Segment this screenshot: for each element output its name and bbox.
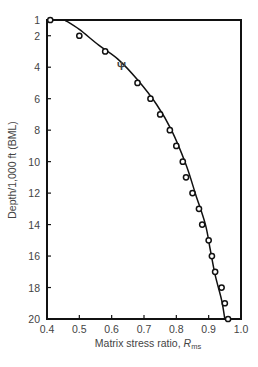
x-tick-label: 1.0 [234, 323, 249, 335]
fitted-curve [65, 20, 225, 319]
data-point-marker [209, 253, 214, 258]
x-tick-label: 0.6 [104, 323, 119, 335]
data-point-marker [167, 128, 172, 133]
data-point-marker [174, 143, 179, 148]
axes [47, 20, 241, 319]
y-tick-label: 6 [34, 93, 40, 105]
data-point-marker [225, 316, 230, 321]
y-tick-label: 2 [34, 30, 40, 42]
y-tick-labels: 12468101214161820 [28, 14, 40, 325]
psi-marker-icon: Ψ [117, 60, 126, 72]
y-tick-label: 16 [28, 250, 40, 262]
depth-vs-stress-ratio-chart: 0.40.50.60.70.80.91.0 12468101214161820 … [0, 0, 258, 367]
data-point-marker [180, 159, 185, 164]
y-tick-label: 1 [34, 14, 40, 26]
data-point-marker [135, 80, 140, 85]
data-point-marker [183, 175, 188, 180]
x-tick-label: 0.7 [137, 323, 152, 335]
x-tick-label: 0.5 [72, 323, 87, 335]
x-axis-label: Matrix stress ratio, Rms [95, 337, 202, 351]
y-tick-label: 18 [28, 282, 40, 294]
y-tick-label: 12 [28, 187, 40, 199]
y-tick-label: 10 [28, 156, 40, 168]
data-point-marker [48, 17, 53, 22]
y-axis-label: Depth/1,000 ft (BML) [6, 121, 18, 218]
x-tick-label: 0.9 [201, 323, 216, 335]
data-point-marker [158, 112, 163, 117]
data-point-marker [213, 269, 218, 274]
y-tick-label: 4 [34, 61, 40, 73]
data-markers: Ψ [48, 17, 231, 321]
data-point-marker [148, 96, 153, 101]
y-tick-label: 8 [34, 124, 40, 136]
data-point-marker [222, 301, 227, 306]
plot-area: 0.40.50.60.70.80.91.0 12468101214161820 … [0, 0, 258, 367]
x-tick-label: 0.8 [169, 323, 184, 335]
tick-marks [47, 20, 241, 319]
data-point-marker [77, 33, 82, 38]
data-point-marker [196, 206, 201, 211]
data-point-marker [200, 222, 205, 227]
y-tick-label: 14 [28, 219, 40, 231]
data-point-marker [206, 238, 211, 243]
data-point-marker [219, 285, 224, 290]
x-tick-labels: 0.40.50.60.70.80.91.0 [40, 323, 249, 335]
y-tick-label: 20 [28, 313, 40, 325]
data-point-marker [190, 191, 195, 196]
data-point-marker [103, 49, 108, 54]
trend-line [65, 20, 225, 319]
x-tick-label: 0.4 [40, 323, 55, 335]
plot-frame [47, 20, 241, 319]
